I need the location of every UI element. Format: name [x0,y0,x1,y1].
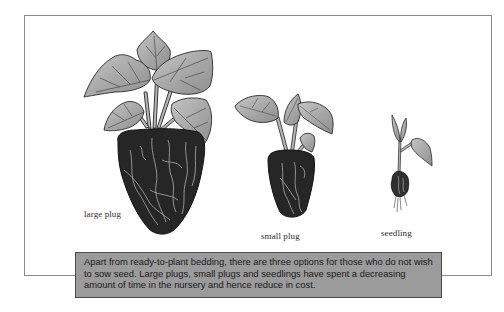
seedling-illustration [391,115,432,212]
seedling-label: seedling [381,228,412,238]
figure-caption: Apart from ready-to-plant bedding, there… [75,252,442,298]
large-plug-illustration [84,31,213,234]
small-plug-label: small plug [261,231,300,241]
large-plug-label: large plug [84,209,121,219]
small-plug-illustration [235,94,333,217]
